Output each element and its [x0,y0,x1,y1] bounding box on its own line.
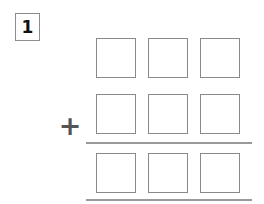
plus-icon: + [58,112,82,138]
cell-r3-c3[interactable] [200,153,240,193]
cell-r2-c1[interactable] [96,94,136,134]
cell-r1-c2[interactable] [148,38,188,78]
cell-r1-c3[interactable] [200,38,240,78]
cell-r2-c2[interactable] [148,94,188,134]
sum-rule [86,142,252,144]
cell-r3-c1[interactable] [96,153,136,193]
problem-number-badge: 1 [15,13,40,41]
problem-number-label: 1 [16,14,39,40]
bottom-rule [86,199,252,201]
cell-r2-c3[interactable] [200,94,240,134]
cell-r3-c2[interactable] [148,153,188,193]
worksheet-problem: 1 + [0,0,264,204]
cell-r1-c1[interactable] [96,38,136,78]
